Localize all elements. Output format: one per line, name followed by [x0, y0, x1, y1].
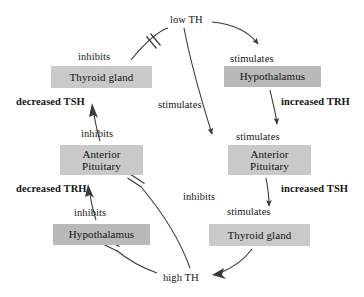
node-hypothalamus-bottom: Hypothalamus [53, 224, 150, 245]
hormone-label-low-th: low TH [170, 14, 203, 26]
edge-label-decreased-trh: decreased TRH [16, 183, 87, 195]
node-thyroid-gland-right: Thyroid gland [209, 224, 310, 246]
edge-label-inhibits-low-th-thyroid: inhibits [78, 51, 110, 63]
hormone-label-high-th: high TH [163, 272, 199, 284]
edge-label-increased-trh: increased TRH [281, 96, 350, 108]
edge-label-inhibits-hypothalamus-pituitary: inhibits [74, 207, 106, 219]
edge-label-inhibits-pituitary-thyroid: inhibits [81, 128, 113, 140]
edge-label-decreased-tsh: decreased TSH [16, 96, 85, 108]
edge-pituitary-stimulates-thyroid [266, 178, 269, 206]
edge-label-inhibits-high-th-pituitary: inhibits [183, 191, 215, 203]
edge-high-th-inhibits-pituitary [128, 174, 191, 268]
feedback-diagram: low TH high TH Thyroid gland Hypothalamu… [0, 0, 364, 297]
edge-low-th-inhibits-thyroid [131, 28, 168, 60]
edge-low-th-stimulates-pituitary [184, 28, 212, 134]
edge-thyroid-produces-high-th [212, 249, 252, 279]
node-thyroid-gland-left: Thyroid gland [51, 66, 152, 88]
node-anterior-pituitary-left: Anterior Pituitary [60, 145, 143, 175]
edge-label-increased-tsh: increased TSH [281, 183, 348, 195]
edge-label-stimulates-tsh-thyroid: stimulates [227, 206, 271, 218]
node-hypothalamus-right: Hypothalamus [224, 66, 321, 87]
edge-label-stimulates-trh-pituitary: stimulates [236, 131, 280, 143]
edge-hypothalamus-stimulates-pituitary [270, 90, 277, 124]
edge-label-stimulates-low-th-pituitary: stimulates [158, 99, 202, 111]
node-anterior-pituitary-right: Anterior Pituitary [228, 145, 311, 175]
edge-label-stimulates-low-th-hypothalamus: stimulates [230, 53, 274, 65]
edge-low-th-stimulates-hypothalamus [212, 22, 258, 44]
